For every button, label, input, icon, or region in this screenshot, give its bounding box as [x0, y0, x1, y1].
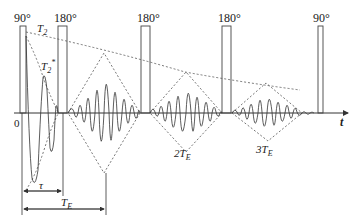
- diagram-canvas: [0, 0, 356, 224]
- pulse-label-90-2: 90°: [313, 12, 330, 24]
- pulse-label-180-3: 180°: [218, 12, 241, 24]
- pulses: [20, 26, 323, 113]
- t2star-label: T2*: [41, 59, 55, 75]
- echo-2: [150, 72, 222, 152]
- echo3-label: 3TE: [256, 144, 273, 158]
- cpmg-diagram: 90° 180° 180° 180° 90° T2 T2* 0 t 2TE 3T…: [0, 0, 356, 224]
- pulse-90-2: [318, 26, 323, 113]
- echo2-label: 2TE: [174, 148, 191, 162]
- pulse-180-3: [222, 26, 231, 113]
- te-label: TE: [61, 197, 72, 211]
- pulse-180-1: [58, 26, 67, 113]
- pulse-180-2: [141, 26, 150, 113]
- pulse-label-180-2: 180°: [137, 12, 160, 24]
- pulse-label-180-1: 180°: [54, 12, 77, 24]
- time-axis-label: t: [340, 116, 343, 128]
- echo-3: [232, 83, 302, 141]
- origin-label: 0: [14, 118, 20, 129]
- tau-label: τ: [39, 180, 43, 191]
- t2-label: T2: [37, 23, 47, 37]
- pulse-label-90-1: 90°: [14, 12, 31, 24]
- pulse-90-1: [20, 26, 26, 113]
